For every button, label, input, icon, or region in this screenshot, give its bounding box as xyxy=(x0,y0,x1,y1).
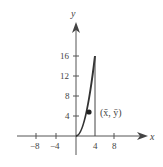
y-tick-label: 8 xyxy=(65,91,70,101)
centroid-point xyxy=(86,109,91,114)
y-axis-label: y xyxy=(70,8,76,19)
y-tick-label: 16 xyxy=(60,51,70,61)
x-tick-label: −8 xyxy=(30,141,40,151)
centroid-label: (x̄, ȳ) xyxy=(100,107,122,119)
x-axis-label: x xyxy=(149,131,155,142)
x-tick-label: −4 xyxy=(50,141,60,151)
x-tick-label: 4 xyxy=(93,141,98,151)
region-centroid-diagram: x y −8 −4 4 8 4 8 12 16 (x̄, ȳ) xyxy=(0,0,163,167)
y-tick-label: 12 xyxy=(60,71,69,81)
y-tick-label: 4 xyxy=(65,111,70,121)
x-tick-label: 8 xyxy=(112,141,117,151)
